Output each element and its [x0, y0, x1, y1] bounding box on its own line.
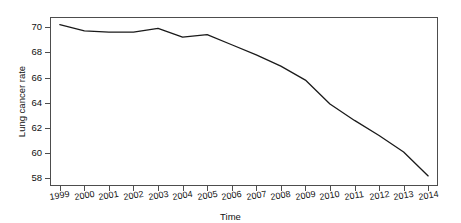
- y-axis-tick-mark: [45, 52, 50, 53]
- x-axis-tick-label: 2013: [393, 190, 414, 202]
- y-axis-tick-mark: [45, 153, 50, 154]
- x-axis-tick-label: 2014: [418, 190, 439, 202]
- x-axis-tick-label: 2009: [295, 190, 316, 202]
- x-axis-tick-label: 2010: [319, 190, 340, 202]
- line-chart-plot: [50, 17, 438, 186]
- y-axis-tick-label: 58: [22, 173, 42, 183]
- y-axis-tick-mark: [45, 128, 50, 129]
- x-axis-tick-label: 2001: [98, 190, 119, 202]
- x-axis-tick-label: 2012: [369, 190, 390, 202]
- x-axis-tick-label: 2000: [74, 190, 95, 202]
- x-axis-tick-label: 2002: [123, 190, 144, 202]
- x-axis-tick-label: 2008: [270, 190, 291, 202]
- y-axis-tick-label: 70: [22, 22, 42, 32]
- chart-screenshot: 58606264666870 Lung cancer rate 19992000…: [0, 0, 461, 223]
- x-axis-title: Time: [0, 211, 461, 222]
- x-axis-tick-label: 2004: [172, 190, 193, 202]
- x-axis-tick-label: 2007: [246, 190, 267, 202]
- data-series-line: [60, 25, 428, 176]
- x-axis-tick-label: 2006: [221, 190, 242, 202]
- x-axis-tick-label: 1999: [49, 190, 70, 202]
- y-axis-tick-mark: [45, 27, 50, 28]
- x-axis-tick-label: 2005: [197, 190, 218, 202]
- x-axis-tick-label: 2003: [148, 190, 169, 202]
- y-axis-title: Lung cancer rate: [16, 37, 27, 167]
- y-axis-tick-mark: [45, 178, 50, 179]
- y-axis-tick-mark: [45, 78, 50, 79]
- x-axis-tick-label: 2011: [344, 190, 365, 202]
- y-axis-tick-mark: [45, 103, 50, 104]
